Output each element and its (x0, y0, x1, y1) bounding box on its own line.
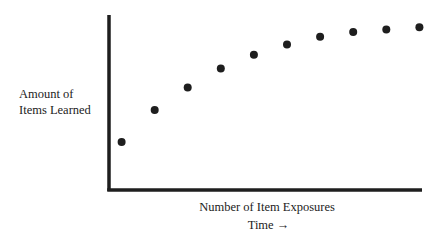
data-point-10 (415, 23, 423, 31)
data-point-9 (382, 25, 390, 33)
data-point-5 (250, 51, 258, 59)
data-point-1 (118, 138, 126, 146)
data-point-7 (316, 33, 324, 41)
data-point-3 (184, 84, 192, 92)
y-axis-label-line-1: Amount of (19, 86, 91, 102)
data-point-8 (349, 28, 357, 36)
data-points (118, 23, 424, 146)
data-point-6 (283, 40, 291, 48)
data-point-4 (217, 64, 225, 72)
data-point-2 (151, 106, 159, 114)
x-axis-secondary-label: Time → (0, 218, 439, 233)
y-axis-label: Amount of Items Learned (19, 86, 91, 118)
x-axis-label: Number of Item Exposures (0, 200, 439, 215)
y-axis-label-line-2: Items Learned (19, 102, 91, 118)
